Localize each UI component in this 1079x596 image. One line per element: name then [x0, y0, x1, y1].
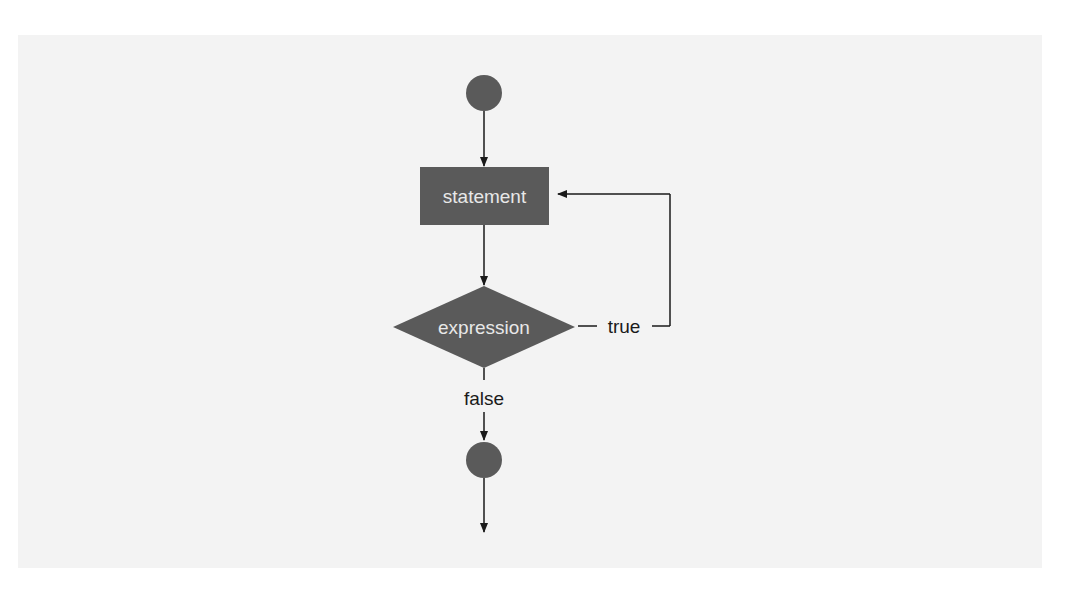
- false-label: false: [464, 388, 504, 409]
- statement-label: statement: [443, 186, 527, 207]
- flowchart: statement expression true false: [0, 0, 1079, 596]
- start-node: [466, 75, 502, 111]
- end-node: [466, 442, 502, 478]
- expression-node: expression: [393, 286, 575, 368]
- true-label: true: [608, 316, 641, 337]
- edge-true-loop: [558, 194, 670, 326]
- statement-node: statement: [420, 167, 549, 225]
- expression-label: expression: [438, 317, 530, 338]
